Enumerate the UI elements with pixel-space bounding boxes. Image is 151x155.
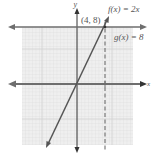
x-axis-right-arrow-icon [140,81,147,87]
g-right-arrow-icon [140,24,147,30]
y-axis-label: y [73,0,78,9]
point-label: (4, 8) [81,15,101,25]
f-up-arrow-icon [104,16,109,23]
g-left-arrow-icon [8,24,15,30]
x-axis-left-arrow-icon [8,81,16,88]
graph: y x (4, 8) f(x) = 2x g(x) = 8 [0,0,151,155]
intersection-point [104,26,107,29]
f-label: f(x) = 2x [108,4,140,14]
y-axis-down-arrow-icon [75,147,80,153]
g-label: g(x) = 8 [114,32,144,42]
x-axis-label: x [146,80,151,88]
